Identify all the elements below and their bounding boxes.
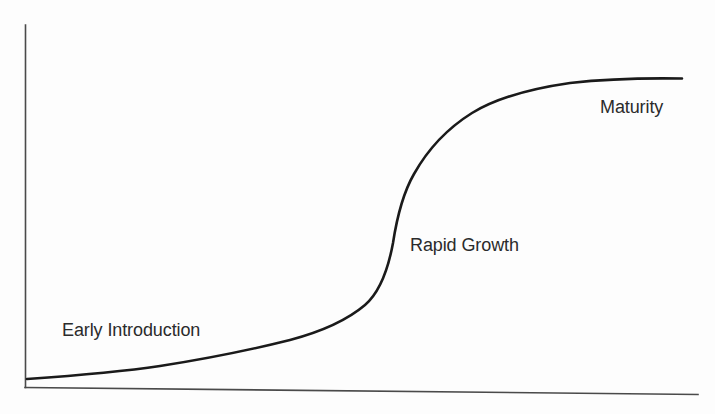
stage-label-early-introduction: Early Introduction (62, 321, 200, 339)
chart-canvas (0, 0, 715, 414)
stage-label-rapid-growth: Rapid Growth (410, 236, 519, 254)
x-axis-line (25, 388, 698, 395)
s-curve-figure: Early Introduction Rapid Growth Maturity (0, 0, 715, 414)
stage-label-maturity: Maturity (600, 98, 663, 116)
